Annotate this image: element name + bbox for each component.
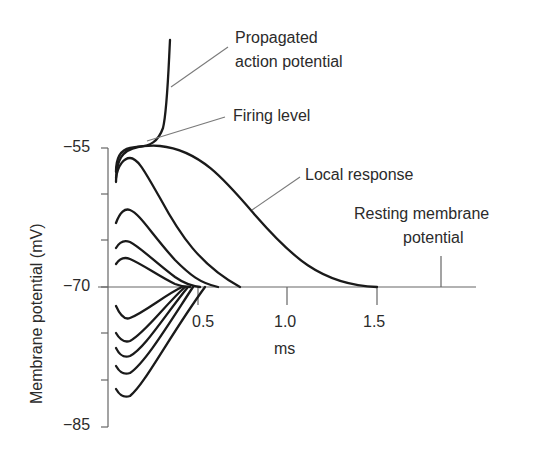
annotation-propagated-line1: Propagated xyxy=(235,28,318,47)
x-axis xyxy=(98,256,476,305)
x-tick-0-5: 0.5 xyxy=(192,313,214,331)
leader-local xyxy=(252,177,300,210)
y-tick-85: −85 xyxy=(63,416,90,434)
y-axis-title: Membrane potential (mV) xyxy=(28,223,46,404)
curve-local-4 xyxy=(116,241,200,287)
y-tick-55: −55 xyxy=(63,138,90,156)
leader-propagated xyxy=(171,47,228,87)
x-tick-1-5: 1.5 xyxy=(363,313,385,331)
leader-lines xyxy=(147,47,300,210)
annotation-resting-line1: Resting membrane xyxy=(354,204,489,223)
curve-hyper-1 xyxy=(116,287,182,318)
curve-local-3 xyxy=(116,210,218,287)
annotation-resting-line2: potential xyxy=(403,228,464,247)
x-tick-1-0: 1.0 xyxy=(274,313,296,331)
y-tick-70: −70 xyxy=(63,277,90,295)
x-axis-title: ms xyxy=(274,340,295,358)
annotation-local-response: Local response xyxy=(305,165,414,184)
annotation-propagated-line2: action potential xyxy=(235,52,343,71)
leader-firing xyxy=(147,117,225,141)
curves xyxy=(116,40,377,397)
annotation-firing-level: Firing level xyxy=(233,106,310,125)
